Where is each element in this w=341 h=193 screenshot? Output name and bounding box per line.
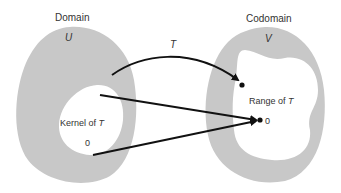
range-label: Range of T xyxy=(249,96,295,106)
codomain-zero-label: 0 xyxy=(265,116,270,126)
linear-transformation-diagram: Domain U Codomain V T Kernel of T 0 Rang… xyxy=(0,0,341,193)
image-point-dot xyxy=(239,82,244,87)
map-label-T: T xyxy=(170,39,177,50)
codomain-zero-dot xyxy=(257,117,262,122)
domain-set-name: U xyxy=(65,32,73,43)
domain-set-U xyxy=(16,27,136,183)
codomain-title: Codomain xyxy=(246,13,292,24)
kernel-label: Kernel of T xyxy=(60,118,106,128)
domain-zero-label: 0 xyxy=(85,138,90,148)
domain-title: Domain xyxy=(55,12,89,23)
